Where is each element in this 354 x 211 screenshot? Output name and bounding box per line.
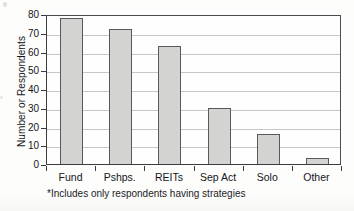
x-tick-mark — [341, 166, 342, 171]
y-tick-label: 60 — [9, 48, 39, 58]
x-tick-label: Fund — [46, 171, 95, 183]
y-tick-label: 0 — [9, 160, 39, 170]
gridline — [47, 91, 340, 92]
scan-artifact — [3, 2, 7, 7]
x-tick-label: Other — [292, 171, 341, 183]
gridline — [47, 35, 340, 36]
x-tick-label: Sep Act — [194, 171, 243, 183]
gridline — [47, 110, 340, 111]
scan-artifact — [0, 96, 3, 99]
gridline — [47, 54, 340, 55]
bar — [158, 46, 181, 164]
gridline — [47, 72, 340, 73]
y-tick-label: 10 — [9, 141, 39, 151]
bar — [208, 108, 231, 164]
gridline — [47, 129, 340, 130]
y-tick-label: 30 — [9, 104, 39, 114]
x-tick-label: Solo — [243, 171, 292, 183]
y-tick-label: 40 — [9, 85, 39, 95]
y-tick-label: 20 — [9, 123, 39, 133]
gridline — [47, 147, 340, 148]
bar-chart: Number or Respondents 01020304050607080 … — [0, 0, 354, 211]
y-tick-label: 70 — [9, 29, 39, 39]
chart-footnote: *Includes only respondents having strate… — [47, 188, 245, 199]
bar — [257, 134, 280, 164]
bar — [60, 18, 83, 164]
bar — [109, 29, 132, 164]
y-tick-label: 80 — [9, 10, 39, 20]
plot-area — [46, 15, 341, 165]
bar — [306, 158, 329, 164]
x-tick-label: Pshps. — [95, 171, 144, 183]
x-tick-label: REITs — [144, 171, 193, 183]
y-tick-label: 50 — [9, 66, 39, 76]
